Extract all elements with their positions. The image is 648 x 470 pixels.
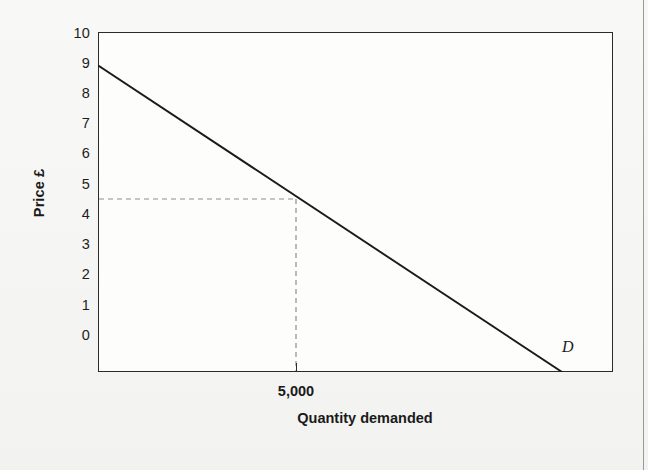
y-axis-tick-5: 5: [60, 177, 90, 192]
y-axis-title: Price £: [31, 148, 47, 238]
y-axis-tick-labels: 10 9 8 7 6 5 4 3 2 1 0: [58, 32, 90, 372]
y-axis-tick-6: 6: [60, 146, 90, 161]
x-axis-tick-label-5000: 5,000: [246, 383, 346, 399]
x-axis-title: Quantity demanded: [215, 410, 515, 426]
y-axis-tick-4: 4: [60, 207, 90, 222]
scanned-page: 10 9 8 7 6 5 4 3 2 1 0 Price £ 5,000 Qua…: [0, 0, 648, 470]
y-axis-tick-2: 2: [60, 267, 90, 282]
y-axis-tick-7: 7: [60, 116, 90, 131]
y-axis-tick-0: 0: [60, 328, 90, 343]
y-axis-tick-8: 8: [60, 86, 90, 101]
y-axis-tick-10: 10: [60, 26, 90, 41]
y-axis-tick-9: 9: [60, 56, 90, 71]
demand-curve-figure: 10 9 8 7 6 5 4 3 2 1 0 Price £ 5,000 Qua…: [0, 0, 648, 470]
x-axis-tick-mark-5000: [296, 363, 297, 372]
plot-svg: [98, 32, 613, 372]
demand-curve-line: [99, 66, 562, 372]
y-axis-tick-3: 3: [60, 237, 90, 252]
y-axis-tick-1: 1: [60, 298, 90, 313]
demand-series-label: D: [562, 338, 574, 356]
plot-area: [98, 32, 613, 372]
